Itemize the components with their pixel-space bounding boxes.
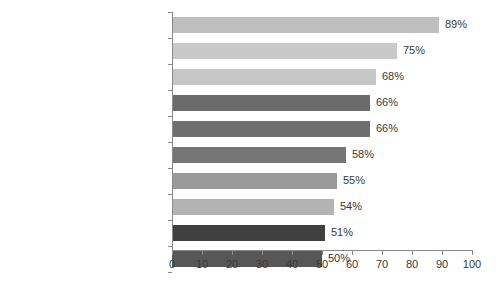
y-tick bbox=[168, 12, 172, 13]
bar bbox=[172, 17, 439, 33]
bar bbox=[172, 147, 346, 163]
x-tick bbox=[442, 251, 443, 255]
bar bbox=[172, 225, 325, 241]
bar-value-label: 51% bbox=[331, 224, 353, 240]
y-tick bbox=[168, 220, 172, 221]
bar-chart: Increased exposure89%Increased traffic75… bbox=[0, 0, 502, 281]
bar bbox=[172, 95, 370, 111]
x-tick bbox=[352, 251, 353, 255]
y-tick bbox=[168, 116, 172, 117]
bar-value-label: 89% bbox=[445, 16, 467, 32]
bar-value-label: 55% bbox=[343, 172, 365, 188]
bar bbox=[172, 69, 376, 85]
x-tick bbox=[322, 251, 323, 255]
x-tick bbox=[262, 251, 263, 255]
bar bbox=[172, 43, 397, 59]
x-tick bbox=[292, 251, 293, 255]
y-tick bbox=[168, 246, 172, 247]
bar bbox=[172, 121, 370, 137]
bar bbox=[172, 173, 337, 189]
bar-value-label: 68% bbox=[382, 68, 404, 84]
x-tick bbox=[382, 251, 383, 255]
y-tick bbox=[168, 142, 172, 143]
y-tick bbox=[168, 168, 172, 169]
y-tick bbox=[168, 194, 172, 195]
y-tick bbox=[168, 64, 172, 65]
y-tick bbox=[168, 272, 172, 273]
x-tick-label: 100 bbox=[452, 258, 492, 270]
bar-value-label: 58% bbox=[352, 146, 374, 162]
plot-area: Increased exposure89%Increased traffic75… bbox=[172, 12, 472, 250]
y-axis-line bbox=[172, 12, 173, 250]
y-tick bbox=[168, 38, 172, 39]
bar-value-label: 66% bbox=[376, 120, 398, 136]
x-tick bbox=[202, 251, 203, 255]
bar-value-label: 66% bbox=[376, 94, 398, 110]
bar-value-label: 54% bbox=[340, 198, 362, 214]
x-tick bbox=[472, 251, 473, 255]
bar bbox=[172, 199, 334, 215]
bar-value-label: 75% bbox=[403, 42, 425, 58]
x-tick bbox=[232, 251, 233, 255]
x-tick bbox=[172, 251, 173, 255]
x-tick bbox=[412, 251, 413, 255]
y-tick bbox=[168, 90, 172, 91]
